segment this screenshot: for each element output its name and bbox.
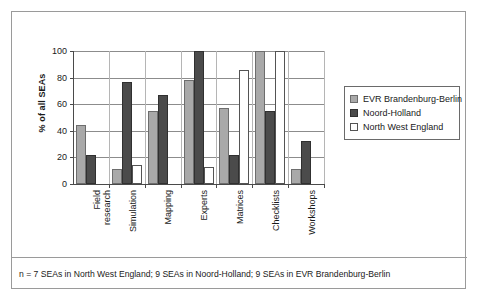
- bar[interactable]: [239, 70, 249, 184]
- y-tick-label: 20: [57, 152, 67, 162]
- x-tick-mark: [216, 184, 217, 188]
- y-tick-label: 0: [62, 179, 67, 189]
- bar-group: [289, 51, 325, 184]
- bars: [184, 51, 214, 184]
- x-tick-mark: [145, 184, 146, 188]
- bar[interactable]: [301, 141, 311, 184]
- x-tick-mark: [109, 184, 110, 188]
- x-axis-label: Mapping: [163, 190, 173, 252]
- x-axis-label: Experts: [199, 190, 209, 252]
- bar[interactable]: [132, 165, 142, 184]
- category-separator: [324, 51, 325, 184]
- bars: [255, 51, 285, 184]
- caption-text: n = 7 SEAs in North West England; 9 SEAs…: [12, 269, 390, 279]
- bar[interactable]: [194, 51, 204, 184]
- bar[interactable]: [265, 111, 275, 184]
- legend-swatch: [350, 123, 358, 131]
- chart-area: % of all SEAs 020406080100 Fieldresearch…: [12, 12, 467, 252]
- y-axis-title: % of all SEAs: [37, 53, 47, 153]
- bar[interactable]: [291, 169, 301, 184]
- legend-item[interactable]: Noord-Holland: [350, 106, 454, 120]
- legend-item[interactable]: EVR Brandenburg-Berlin: [350, 92, 454, 106]
- legend-label: North West England: [363, 122, 443, 132]
- legend-item[interactable]: North West England: [350, 120, 454, 134]
- bars: [291, 51, 321, 184]
- bar[interactable]: [86, 155, 96, 184]
- legend-label: EVR Brandenburg-Berlin: [363, 94, 462, 104]
- x-axis-label: Fieldresearch: [92, 190, 112, 252]
- legend-swatch: [350, 95, 358, 103]
- bar[interactable]: [158, 95, 168, 184]
- bar[interactable]: [229, 155, 239, 184]
- legend: EVR Brandenburg-BerlinNoord-HollandNorth…: [344, 86, 460, 140]
- bar-group: [253, 51, 289, 184]
- x-tick-mark: [324, 184, 325, 188]
- bar-group: [110, 51, 146, 184]
- bar[interactable]: [76, 125, 86, 184]
- x-axis-label: Checklists: [271, 190, 281, 252]
- bar-group: [217, 51, 253, 184]
- legend-label: Noord-Holland: [363, 108, 421, 118]
- y-tick-mark: [70, 184, 74, 185]
- bars: [76, 51, 106, 184]
- bars: [148, 51, 178, 184]
- y-tick-label: 40: [57, 126, 67, 136]
- x-tick-mark: [252, 184, 253, 188]
- bar-group: [182, 51, 218, 184]
- bar[interactable]: [112, 169, 122, 184]
- bar-group: [74, 51, 110, 184]
- y-tick-label: 80: [57, 73, 67, 83]
- bar[interactable]: [204, 167, 214, 184]
- bar[interactable]: [219, 108, 229, 184]
- bar[interactable]: [148, 111, 158, 184]
- caption-box: n = 7 SEAs in North West England; 9 SEAs…: [12, 257, 467, 289]
- bars: [112, 51, 142, 184]
- legend-swatch: [350, 109, 358, 117]
- y-tick-label: 100: [52, 46, 67, 56]
- bars: [219, 51, 249, 184]
- y-tick-label: 60: [57, 99, 67, 109]
- figure-frame: % of all SEAs 020406080100 Fieldresearch…: [11, 11, 466, 289]
- x-axis-label: Simulation: [128, 190, 138, 252]
- x-axis-label: Matrices: [235, 190, 245, 252]
- x-tick-mark: [181, 184, 182, 188]
- x-axis-label: Workshops: [307, 190, 317, 252]
- bar[interactable]: [275, 51, 285, 184]
- bar[interactable]: [122, 82, 132, 184]
- bar[interactable]: [255, 51, 265, 184]
- x-tick-mark: [288, 184, 289, 188]
- bar-group: [146, 51, 182, 184]
- plot-area: 020406080100: [73, 51, 325, 185]
- bar[interactable]: [184, 80, 194, 184]
